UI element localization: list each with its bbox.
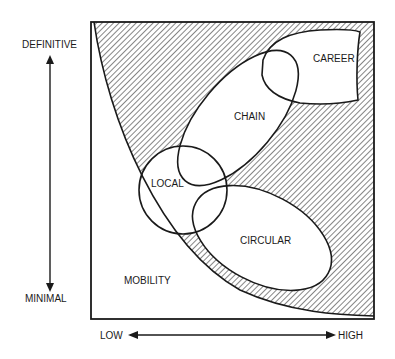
x-axis-left-label: LOW — [100, 330, 123, 341]
y-axis-top-label: DEFINITIVE — [22, 39, 77, 50]
arrow-down-icon — [46, 283, 54, 292]
chain-label: CHAIN — [234, 111, 265, 122]
circular-label: CIRCULAR — [240, 235, 291, 246]
x-axis-right-label: HIGH — [338, 330, 363, 341]
career-label: CAREER — [313, 53, 355, 64]
arrow-right-icon — [326, 331, 336, 339]
vertical-axis-arrow — [46, 55, 54, 292]
arrow-up-icon — [46, 55, 54, 64]
mobility-diagram: DEFINITIVE MINIMAL LOW HIGH CAREER CHAIN… — [0, 0, 395, 359]
y-axis-bottom-label: MINIMAL — [25, 293, 67, 304]
arrow-left-icon — [128, 331, 138, 339]
horizontal-axis-arrow — [128, 331, 336, 339]
mobility-label: MOBILITY — [124, 275, 171, 286]
local-label: LOCAL — [151, 178, 184, 189]
